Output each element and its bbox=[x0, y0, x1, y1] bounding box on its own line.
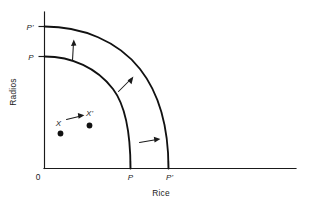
outer-frontier-curve bbox=[45, 27, 169, 169]
shift-arrow-lower-head bbox=[154, 137, 161, 143]
shift-arrows-group bbox=[71, 40, 160, 143]
y-axis-title: Radios bbox=[8, 78, 18, 105]
x-tick-label-p-prime: P' bbox=[166, 173, 173, 182]
shift-arrow-upper bbox=[71, 40, 76, 61]
labels-group: P' P 0 P P' Rice Radios X X' bbox=[8, 23, 173, 199]
shift-arrow-diagonal bbox=[119, 77, 134, 92]
point-x-dot bbox=[58, 131, 64, 137]
x-tick-label-p: P bbox=[128, 173, 134, 182]
ppf-diagram: P' P 0 P P' Rice Radios X X' bbox=[0, 0, 321, 205]
y-tick-label-p-prime: P' bbox=[27, 23, 34, 32]
origin-label: 0 bbox=[36, 172, 41, 182]
ppf-svg-canvas: P' P 0 P P' Rice Radios X X' bbox=[0, 0, 321, 205]
point-x-prime-label: X' bbox=[85, 109, 93, 118]
shift-arrow-diagonal-head bbox=[128, 77, 134, 85]
y-tick-label-p: P bbox=[28, 53, 34, 62]
shift-arrow-upper-head bbox=[71, 40, 76, 46]
x-axis-title: Rice bbox=[152, 188, 170, 198]
shift-arrow-lower bbox=[140, 137, 161, 143]
frontier-curves-group bbox=[45, 27, 169, 169]
tick-marks-group bbox=[39, 27, 169, 169]
point-move-arrow-head bbox=[78, 113, 85, 119]
point-move-arrow bbox=[67, 113, 85, 119]
point-x-label: X bbox=[55, 119, 62, 128]
axes-group bbox=[44, 12, 296, 169]
point-x-prime-dot bbox=[87, 123, 93, 129]
